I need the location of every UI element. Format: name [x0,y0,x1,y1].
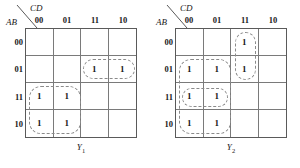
kmap-y1-cell-r1c1 [54,56,82,83]
kmap-y1-col-header-3: 10 [109,15,137,25]
kmap-y1-row-header-2: 11 [3,83,23,111]
kmap-y2-col-header-0: 00 [175,15,203,25]
kmap-y1-grid: 1 1 1 1 1 1 [25,28,137,138]
kmap-y1-row-var-label: AB [6,17,17,27]
kmap-y2-row-header-2: 11 [153,83,173,111]
kmap-y2-col-var-label: CD [180,3,193,13]
kmap-y2-row-var-label: AB [156,17,167,27]
kmap-y2: CD AB 00 01 11 10 00 01 11 10 1 1 1 1 1 … [150,0,300,168]
kmap-y2-row-header-0: 00 [153,28,173,56]
kmap-y1-cell-r3c3 [109,110,137,137]
kmap-y1-cell-r0c3 [109,29,137,56]
kmap-y2-output-label: Y2 [175,142,287,154]
kmap-y1-col-header-0: 00 [25,15,53,25]
kmap-y2-col-header-2: 11 [231,15,259,25]
kmap-y1-cell-r2c3 [109,83,137,110]
kmap-y1-col-header-1: 01 [53,15,81,25]
kmap-y2-cell-r0c1 [204,29,232,56]
kmap-y1-cell-r1c3: 1 [109,56,137,83]
kmap-y2-cell-r3c0: 1 [176,110,204,137]
kmap-y1-cell-r2c0: 1 [26,83,54,110]
kmap-y1-cell-r3c0: 1 [26,110,54,137]
kmap-y1: CD AB 00 01 11 10 00 01 11 10 1 1 1 1 1 … [0,0,150,168]
kmap-y1-cell-r1c0 [26,56,54,83]
kmap-y1-cell-r2c2 [81,83,109,110]
kmap-y2-grid: 1 1 1 1 1 1 1 1 [175,28,287,138]
kmap-y1-output-label: Y1 [25,142,137,154]
kmap-y2-cell-r2c2 [231,83,259,110]
kmap-y1-cell-r0c1 [54,29,82,56]
kmap-y2-cell-r1c2: 1 [231,56,259,83]
kmap-y2-cell-r3c3 [259,110,287,137]
karnaugh-map-figure: CD AB 00 01 11 10 00 01 11 10 1 1 1 1 1 … [0,0,300,168]
kmap-y2-cell-r0c2: 1 [231,29,259,56]
kmap-y1-cell-r3c1: 1 [54,110,82,137]
kmap-y2-cell-r3c2 [231,110,259,137]
kmap-y2-cell-r2c0: 1 [176,83,204,110]
kmap-y1-cell-r2c1: 1 [54,83,82,110]
kmap-y2-row-header-3: 10 [153,111,173,139]
kmap-y2-cell-r2c1: 1 [204,83,232,110]
kmap-y2-cell-r0c3 [259,29,287,56]
kmap-y1-cell-r3c2 [81,110,109,137]
kmap-y1-row-header-0: 00 [3,28,23,56]
kmap-y2-col-header-1: 01 [203,15,231,25]
kmap-y1-cell-r1c2: 1 [81,56,109,83]
kmap-y1-row-header-1: 01 [3,56,23,84]
kmap-y1-col-var-label: CD [30,3,43,13]
kmap-y2-cell-r1c3 [259,56,287,83]
kmap-y1-col-header-2: 11 [81,15,109,25]
kmap-y2-cell-r2c3 [259,83,287,110]
kmap-y2-cell-r3c1: 1 [204,110,232,137]
kmap-y1-cell-r0c0 [26,29,54,56]
kmap-y2-cell-r0c0 [176,29,204,56]
kmap-y1-cell-r0c2 [81,29,109,56]
kmap-y2-col-header-3: 10 [259,15,287,25]
kmap-y2-row-header-1: 01 [153,56,173,84]
kmap-y2-cell-r1c0: 1 [176,56,204,83]
kmap-y2-cell-r1c1: 1 [204,56,232,83]
kmap-y1-row-header-3: 10 [3,111,23,139]
